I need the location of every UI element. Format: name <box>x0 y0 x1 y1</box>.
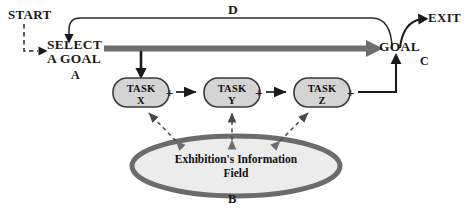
information-field-label: Exhibition's InformationField <box>140 152 332 181</box>
feedback-loop-d <box>64 18 392 49</box>
goal-node-label[interactable]: GOAL <box>379 40 420 54</box>
task-y-line2: Y <box>228 95 236 106</box>
label-d: D <box>228 3 238 17</box>
exit-node-label: EXIT <box>428 11 461 25</box>
task-z-to-goal-connector <box>358 53 401 92</box>
task-z-label: TASKZ <box>298 83 346 107</box>
task-z-line1: TASK <box>308 83 337 94</box>
main-flow-bar <box>104 40 383 57</box>
information-field-line2: Field <box>224 167 249 179</box>
bar-to-task-x-arrow <box>135 51 146 79</box>
start-to-select-connector <box>24 24 48 56</box>
operator-plus-3: + <box>347 85 354 101</box>
label-b: B <box>228 193 237 206</box>
task-z-line2: Z <box>318 95 325 106</box>
field-to-task-x-link <box>149 113 176 141</box>
start-node-label: START <box>8 8 51 22</box>
information-field-line1: Exhibition's Information <box>175 153 297 165</box>
diagram-canvas: START SELECTA GOAL A D GOAL C EXIT B TAS… <box>0 0 468 219</box>
operator-plus-1: + <box>166 85 173 101</box>
task-y-label: TASKY <box>208 83 256 107</box>
task-y-line1: TASK <box>218 83 247 94</box>
task-x-label: TASKX <box>117 83 165 107</box>
label-c: C <box>420 55 429 68</box>
operator-plus-2: + <box>255 85 262 101</box>
select-a-goal-node[interactable]: SELECTA GOAL <box>47 38 102 66</box>
label-a: A <box>71 69 80 82</box>
task-x-line2: X <box>137 95 145 106</box>
select-a-goal-line2: A GOAL <box>47 51 101 66</box>
select-a-goal-line1: SELECT <box>47 37 102 52</box>
task-x-line1: TASK <box>127 83 156 94</box>
diagram-vector-layer <box>0 0 468 219</box>
